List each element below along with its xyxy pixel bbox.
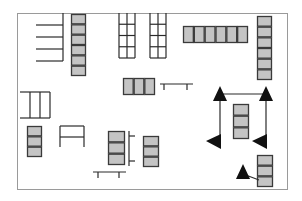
stack-center-lower <box>109 132 125 165</box>
stack-cell <box>194 27 204 43</box>
arrow-left-bottom-left-icon <box>206 134 221 149</box>
stack-cell <box>109 154 125 164</box>
bracket-center <box>129 131 135 166</box>
stack-cell <box>144 147 159 156</box>
stack-left-small <box>28 127 42 157</box>
stack-cell <box>234 105 249 116</box>
floor-plan-svg <box>0 0 302 201</box>
rack-top-left <box>36 13 63 61</box>
stack-cell <box>258 49 272 59</box>
table-bottom <box>93 172 126 178</box>
stack-cell <box>258 59 272 69</box>
stack-cell <box>72 25 86 34</box>
stack-cell <box>28 137 42 146</box>
open-grids <box>119 13 166 58</box>
stack-center-right <box>144 137 159 167</box>
shelf-frame-left <box>20 92 50 118</box>
stack-cell <box>258 38 272 48</box>
stack-bottom-right <box>258 156 273 187</box>
arrow-left-bottom-right-icon <box>252 134 267 149</box>
stack-cell <box>258 166 273 176</box>
stack-cell <box>72 35 86 44</box>
stack-right-vertical <box>258 17 272 80</box>
stack-middle-horizontal <box>124 79 155 95</box>
stack-cell <box>72 66 86 75</box>
stack-cell <box>144 137 159 146</box>
open-grid-right <box>150 13 166 58</box>
stack-cell <box>258 17 272 27</box>
stack-cell <box>72 46 86 55</box>
stack-cell <box>216 27 226 43</box>
stack-arrow-frame-inner <box>234 105 249 139</box>
stack-top-horizontal <box>184 27 248 43</box>
stack-cell <box>238 27 248 43</box>
stack-cell <box>72 15 86 24</box>
open-grid-left <box>119 13 135 58</box>
arrow-up-bottom-icon <box>236 164 250 179</box>
stack-cell <box>234 116 249 127</box>
stack-cell <box>28 147 42 156</box>
floor-plan-diagram <box>0 0 302 201</box>
stack-cell <box>109 132 125 142</box>
stack-cell <box>258 70 272 80</box>
bench-frame <box>60 126 84 147</box>
stack-cell <box>227 27 237 43</box>
stack-cell <box>124 79 134 95</box>
stack-cell <box>258 27 272 37</box>
stack-cell <box>134 79 144 95</box>
stack-cell <box>144 157 159 166</box>
stack-cell <box>28 127 42 136</box>
stack-cell <box>184 27 194 43</box>
stack-cell <box>72 56 86 65</box>
stack-cell <box>109 143 125 153</box>
stack-cell <box>258 177 273 187</box>
stack-top-left-vertical <box>72 15 86 76</box>
stack-cell <box>205 27 215 43</box>
stack-cell <box>234 128 249 139</box>
table-middle <box>160 84 193 90</box>
stack-cell <box>145 79 155 95</box>
stack-cell <box>258 156 273 166</box>
